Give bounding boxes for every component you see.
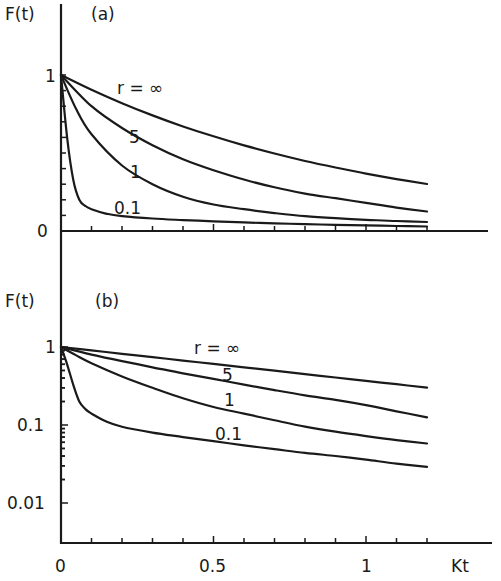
panel-a-curve-r-inf xyxy=(61,75,427,184)
panel-b-curve-r-1 xyxy=(61,347,427,444)
panel-a-label-r-0-1: 0.1 xyxy=(114,198,141,218)
x-tick-0: 0 xyxy=(55,556,66,576)
panel-a-curve-r-5 xyxy=(61,75,427,212)
panel-a-ytick-1: 1 xyxy=(45,66,56,86)
x-tick-1: 1 xyxy=(361,556,372,576)
panel-b-tag: (b) xyxy=(95,291,119,311)
panel-a-label-r-1: 1 xyxy=(130,162,141,182)
panel-b-curves xyxy=(61,347,427,467)
panel-a-label-r-inf: r = ∞ xyxy=(117,78,163,98)
panel-a: F(t) (a) 1 0 r = ∞ 5 1 0.1 xyxy=(5,4,488,241)
panel-a-tag: (a) xyxy=(91,4,115,24)
panel-b-ytick-0-1: 0.1 xyxy=(17,415,44,435)
panel-a-ytick-0: 0 xyxy=(37,221,48,241)
panel-b-label-r-0-1: 0.1 xyxy=(215,424,242,444)
figure: F(t) (a) 1 0 r = ∞ 5 1 0.1 F(t) (b) 1 0.… xyxy=(0,0,501,581)
panel-b-label-r-5: 5 xyxy=(222,365,233,385)
panel-b-ytick-0-01: 0.01 xyxy=(7,493,45,513)
x-axis-label: Kt xyxy=(451,556,469,576)
panel-b-label-r-1: 1 xyxy=(224,390,235,410)
panel-b-label-r-inf: r = ∞ xyxy=(194,338,240,358)
x-tick-0-5: 0.5 xyxy=(199,556,226,576)
panel-b: F(t) (b) 1 0.1 0.01 r = ∞ 5 1 0.1 xyxy=(5,291,492,543)
panel-b-ytick-1: 1 xyxy=(45,337,56,357)
panel-b-curve-r-inf xyxy=(61,347,427,388)
panel-b-ylabel: F(t) xyxy=(5,291,35,311)
panel-a-label-r-5: 5 xyxy=(129,127,140,147)
panel-a-ylabel: F(t) xyxy=(5,4,35,24)
